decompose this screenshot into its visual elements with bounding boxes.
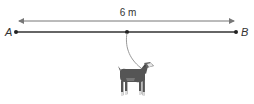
point-b-dot	[234, 30, 238, 34]
goat-tether-diagram: 6 m A B	[0, 0, 254, 104]
rope	[126, 33, 141, 68]
dimension-label: 6 m	[120, 7, 137, 18]
goat-icon	[118, 62, 154, 96]
point-b-label: B	[241, 26, 248, 38]
point-a-dot	[14, 30, 18, 34]
point-a-label: A	[4, 26, 12, 38]
